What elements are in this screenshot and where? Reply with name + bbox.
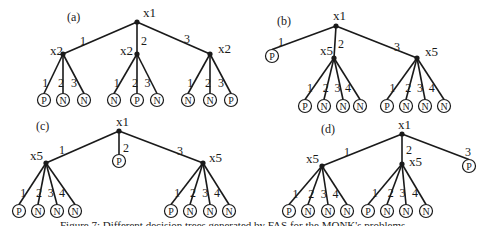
root-attribute-label: x1 — [398, 117, 411, 132]
leaf-class-label: N — [440, 101, 447, 112]
leaf-positive: P — [225, 94, 238, 107]
leaf-class-label: N — [356, 101, 363, 112]
edge-label: 3 — [177, 144, 183, 158]
split-node-dot — [134, 19, 139, 24]
leaf-negative: N — [204, 94, 217, 107]
leaf-negative: N — [57, 94, 70, 107]
panel-label: (a) — [67, 10, 80, 24]
leaf-class-label: N — [304, 206, 311, 217]
edge-label: 2 — [205, 76, 211, 90]
leaf-positive: P — [463, 160, 476, 173]
panel-label: (d) — [321, 122, 335, 136]
panel-label: (c) — [36, 119, 49, 133]
edge-label: 1 — [80, 34, 86, 48]
tree-edge — [322, 134, 402, 166]
leaf-positive: P — [13, 205, 26, 218]
tree-edge — [119, 131, 203, 163]
split-node-dot — [200, 160, 205, 165]
leaf-class-label: N — [206, 206, 213, 217]
tree-edge — [336, 26, 417, 58]
split-attribute-label: x2 — [218, 41, 231, 56]
leaf-class-label: P — [286, 206, 292, 217]
leaf-class-label: P — [41, 95, 47, 106]
edge-label: 4 — [429, 81, 435, 95]
leaf-negative: N — [419, 100, 432, 113]
leaf-class-label: N — [225, 206, 232, 217]
split-node-dot — [333, 23, 338, 28]
leaf-positive: P — [131, 94, 144, 107]
edge-label: 1 — [307, 81, 313, 95]
edge-label: 4 — [412, 186, 418, 200]
leaf-positive: P — [38, 94, 51, 107]
edge-label: 4 — [214, 186, 220, 200]
leaf-negative: N — [32, 205, 45, 218]
leaf-class-label: P — [228, 95, 234, 106]
leaf-class-label: N — [343, 206, 350, 217]
edge-label: 1 — [278, 35, 284, 49]
root-attribute-label: x1 — [116, 114, 129, 129]
split-node-dot — [414, 55, 419, 60]
leaf-negative: N — [78, 94, 91, 107]
leaf-class-label: N — [53, 206, 60, 217]
leaf-negative: N — [182, 94, 195, 107]
leaf-class-label: N — [186, 206, 193, 217]
edge-label: 1 — [42, 76, 48, 90]
edge-label: 1 — [344, 145, 350, 159]
leaf-positive: P — [266, 50, 279, 63]
leaf-class-label: P — [269, 51, 275, 62]
tree-panel-a: (a)11P2N3Nx221N2P3Nx231N2N3Px2x1 — [38, 5, 238, 107]
leaf-class-label: P — [134, 95, 140, 106]
leaf-class-label: P — [365, 206, 371, 217]
leaf-class-label: P — [384, 101, 390, 112]
split-node-dot — [207, 51, 212, 56]
leaf-negative: N — [151, 94, 164, 107]
leaf-negative: N — [438, 100, 451, 113]
split-node-dot — [399, 161, 404, 166]
edge-label: 1 — [59, 143, 65, 157]
edge-label: 1 — [293, 187, 299, 201]
edge-label: 3 — [321, 187, 327, 201]
tree-edge — [137, 22, 210, 54]
leaf-negative: N — [354, 100, 367, 113]
decision-trees-figure: (a)11P2N3Nx221N2P3Nx231N2N3Px2x1(b)1P21P… — [0, 0, 484, 226]
leaf-negative: N — [400, 100, 413, 113]
split-attribute-label: x5 — [320, 43, 333, 58]
edge-label: 2 — [338, 37, 344, 51]
leaf-class-label: P — [16, 206, 22, 217]
edge-label: 3 — [71, 76, 77, 90]
leaf-class-label: N — [422, 206, 429, 217]
split-node-dot — [399, 131, 404, 136]
root-attribute-label: x1 — [143, 5, 156, 20]
split-attribute-label: x5 — [425, 44, 438, 59]
tree-panel-b: (b)1P21P2N3N4Nx531P2N3N4Nx5x1 — [266, 8, 451, 113]
leaf-class-label: P — [168, 206, 174, 217]
leaf-class-label: N — [383, 206, 390, 217]
edge-label: 2 — [132, 76, 138, 90]
tree-panel-c: (c)11P2N3N4Nx52P31P2N3N4Nx5x1 — [13, 114, 236, 218]
edge-label: 1 — [20, 186, 26, 200]
leaf-class-label: P — [466, 161, 472, 172]
split-attribute-label: x5 — [209, 150, 222, 165]
edge-label: 3 — [399, 186, 405, 200]
edge-label: 3 — [144, 76, 150, 90]
edge-label: 1 — [372, 186, 378, 200]
panel-label: (b) — [277, 14, 291, 28]
leaf-class-label: P — [302, 101, 308, 112]
leaf-class-label: N — [59, 95, 66, 106]
leaf-positive: P — [299, 100, 312, 113]
leaf-positive: P — [381, 100, 394, 113]
edge-label: 2 — [36, 186, 42, 200]
split-node-dot — [134, 51, 139, 56]
edge-label: 3 — [184, 32, 190, 46]
leaf-negative: N — [337, 100, 350, 113]
leaf-positive: P — [113, 155, 126, 168]
leaf-class-label: P — [116, 156, 122, 167]
edge-label: 1 — [174, 186, 180, 200]
edge-label: 3 — [48, 186, 54, 200]
edge-label: 1 — [187, 76, 193, 90]
leaf-negative: N — [108, 94, 121, 107]
tree-panel-d: (d)11P2N3N4Nx521P2N3N4Nx53Px1 — [283, 117, 476, 218]
edge-label: 2 — [308, 187, 314, 201]
edge-label: 2 — [141, 34, 147, 48]
leaf-class-label: N — [34, 206, 41, 217]
